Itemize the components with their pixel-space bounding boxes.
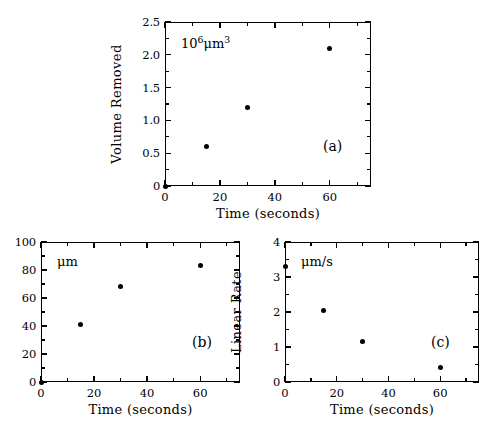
y-tick-right-a-4 <box>365 54 371 55</box>
data-point <box>39 380 44 385</box>
y-minor-tick-b-2 <box>41 311 45 312</box>
x-tick-label-b-1: 20 <box>74 386 114 400</box>
x-tick-c-2 <box>388 376 389 382</box>
y-tick-right-c-0 <box>473 381 479 382</box>
x-tick-label-b-0: 0 <box>21 386 61 400</box>
y-minor-tick-b-0 <box>41 367 45 368</box>
x-minor-tick-top-a <box>302 22 303 26</box>
y-minor-tick-right-c-0 <box>475 364 479 365</box>
x-tick-label-a-1: 20 <box>200 190 240 204</box>
data-point <box>163 184 168 189</box>
x-minor-tick-top-b <box>67 242 68 246</box>
x-tick-top-b-2 <box>146 242 147 248</box>
x-minor-tick-c <box>310 378 311 382</box>
x-minor-tick-c <box>465 378 466 382</box>
y-minor-tick-a-2 <box>165 103 169 104</box>
data-point <box>283 264 288 269</box>
y-tick-right-a-3 <box>365 87 371 88</box>
x-tick-top-a-1 <box>219 22 220 28</box>
panel-label-b: (b) <box>192 334 212 350</box>
x-minor-tick-b <box>226 378 227 382</box>
y-tick-label-b-3: 60 <box>2 291 36 305</box>
y-tick-right-c-3 <box>473 276 479 277</box>
x-tick-top-b-3 <box>200 242 201 248</box>
y-tick-a-1 <box>165 153 171 154</box>
y-minor-tick-right-c-2 <box>475 294 479 295</box>
data-point <box>438 365 443 370</box>
y-tick-right-c-1 <box>473 346 479 347</box>
x-tick-top-b-0 <box>40 242 41 248</box>
y-tick-label-a-1: 0.5 <box>126 146 160 160</box>
y-minor-tick-c-3 <box>285 259 289 260</box>
x-minor-tick-a <box>247 182 248 186</box>
y-tick-label-a-2: 1.0 <box>126 113 160 127</box>
x-tick-b-1 <box>93 376 94 382</box>
y-tick-label-c-4: 4 <box>246 235 280 249</box>
y-minor-tick-right-a-2 <box>367 103 371 104</box>
y-minor-tick-a-3 <box>165 71 169 72</box>
x-tick-top-c-0 <box>284 242 285 248</box>
y-tick-label-c-2: 2 <box>246 305 280 319</box>
y-tick-a-5 <box>165 21 171 22</box>
y-axis-title-c: Linear Rate <box>229 271 244 353</box>
y-tick-right-a-1 <box>365 153 371 154</box>
y-tick-label-a-5: 2.5 <box>126 15 160 29</box>
x-tick-top-a-3 <box>329 22 330 28</box>
y-tick-right-b-1 <box>234 353 240 354</box>
y-tick-label-b-1: 20 <box>2 347 36 361</box>
y-minor-tick-a-4 <box>165 38 169 39</box>
y-minor-tick-a-1 <box>165 136 169 137</box>
y-minor-tick-right-a-1 <box>367 136 371 137</box>
x-minor-tick-top-b <box>173 242 174 246</box>
y-minor-tick-right-b-0 <box>236 367 240 368</box>
x-axis-title-c: Time (seconds) <box>302 402 462 417</box>
panel-label-c: (c) <box>431 334 450 350</box>
x-tick-c-1 <box>336 376 337 382</box>
y-minor-tick-a-0 <box>165 169 169 170</box>
x-tick-label-c-3: 60 <box>420 386 460 400</box>
x-tick-label-c-1: 20 <box>317 386 357 400</box>
x-minor-tick-top-a <box>192 22 193 26</box>
y-tick-c-2 <box>285 311 291 312</box>
x-tick-label-a-3: 60 <box>310 190 350 204</box>
y-tick-a-4 <box>165 54 171 55</box>
x-minor-tick-c <box>414 378 415 382</box>
y-minor-tick-c-1 <box>285 329 289 330</box>
x-minor-tick-b <box>173 378 174 382</box>
x-minor-tick-a <box>302 182 303 186</box>
x-tick-top-c-3 <box>440 242 441 248</box>
y-minor-tick-b-4 <box>41 255 45 256</box>
data-point <box>204 144 209 149</box>
y-tick-label-c-3: 3 <box>246 270 280 284</box>
x-tick-c-3 <box>440 376 441 382</box>
y-minor-tick-c-2 <box>285 294 289 295</box>
x-tick-top-c-2 <box>388 242 389 248</box>
units-annotation-c: μm/s <box>301 254 333 269</box>
x-minor-tick-top-a <box>357 22 358 26</box>
x-tick-label-c-2: 40 <box>368 386 408 400</box>
y-tick-label-b-4: 80 <box>2 263 36 277</box>
x-minor-tick-top-c <box>310 242 311 246</box>
x-minor-tick-top-b <box>120 242 121 246</box>
x-minor-tick-a <box>192 182 193 186</box>
units-annotation-b: μm <box>57 254 78 269</box>
units-annotation-a: 106μm3 <box>181 34 230 51</box>
y-tick-right-b-5 <box>234 241 240 242</box>
x-tick-top-b-1 <box>93 242 94 248</box>
y-minor-tick-right-a-0 <box>367 169 371 170</box>
y-tick-right-c-2 <box>473 311 479 312</box>
x-tick-b-2 <box>146 376 147 382</box>
x-tick-top-a-2 <box>274 22 275 28</box>
y-tick-label-b-5: 100 <box>2 235 36 249</box>
panel-label-a: (a) <box>323 138 342 154</box>
y-tick-c-1 <box>285 346 291 347</box>
x-tick-c-0 <box>284 376 285 382</box>
x-tick-label-c-0: 0 <box>265 386 305 400</box>
figure-canvas: Volume Removed Time (seconds) 106μm3 (a)… <box>0 0 494 421</box>
y-tick-right-a-0 <box>365 185 371 186</box>
y-tick-b-5 <box>41 241 47 242</box>
x-tick-top-c-1 <box>336 242 337 248</box>
x-minor-tick-b <box>120 378 121 382</box>
x-tick-label-a-0: 0 <box>145 190 185 204</box>
y-tick-label-a-4: 2.0 <box>126 48 160 62</box>
